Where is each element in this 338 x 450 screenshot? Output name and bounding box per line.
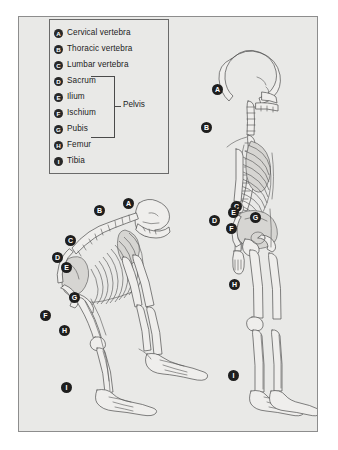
legend-label-c: Lumbar vertebra [67,57,129,73]
callout-human-e: E [228,207,239,218]
pelvis-bracket-tick [115,106,121,107]
legend-badge-c: C [54,61,63,70]
callout-ape-i: I [61,382,72,393]
legend-item-a: A Cervical vertebra [54,25,168,41]
figure-panel: A Cervical vertebra B Thoracic vertebra … [18,16,318,432]
legend-badge-e: E [54,93,63,102]
ape-skeleton-art [57,199,207,415]
callout-human-b: B [201,122,212,133]
callout-ape-b: B [94,205,105,216]
legend-item-e: E Ilium [54,89,168,105]
legend-box: A Cervical vertebra B Thoracic vertebra … [49,19,169,174]
legend-item-c: C Lumbar vertebra [54,57,168,73]
legend-item-f: F Ischium [54,105,168,121]
legend-item-d: D Sacrum [54,73,168,89]
legend-badge-d: D [54,77,63,86]
legend-label-i: Tibia [67,153,85,169]
legend-badge-h: H [54,141,63,150]
legend-label-b: Thoracic vertebra [67,41,132,57]
callout-ape-d: D [52,252,63,263]
callout-human-a: A [212,84,223,95]
pelvis-bracket-label: Pelvis [123,100,145,109]
legend-item-g: G Pubis [54,121,168,137]
legend-badge-b: B [54,45,63,54]
callout-human-h: H [229,279,240,290]
legend-label-h: Femur [67,137,91,153]
legend-label-a: Cervical vertebra [67,25,131,41]
legend-label-f: Ischium [67,105,96,121]
callout-ape-g: G [69,292,80,303]
callout-human-f: F [226,223,237,234]
callout-ape-c: C [65,235,76,246]
callout-human-g: G [250,212,261,223]
legend-item-h: H Femur [54,137,168,153]
callout-ape-f: F [40,310,51,321]
legend-label-g: Pubis [67,121,88,137]
callout-ape-e: E [61,262,72,273]
legend-label-e: Ilium [67,89,85,105]
callout-ape-h: H [59,325,70,336]
callout-human-i: I [228,370,239,381]
legend-item-i: I Tibia [54,153,168,169]
legend-badge-f: F [54,109,63,118]
legend-badge-g: G [54,125,63,134]
legend-label-d: Sacrum [67,73,96,89]
legend-badge-i: I [54,157,63,166]
legend-item-b: B Thoracic vertebra [54,41,168,57]
callout-human-d: D [209,215,220,226]
legend-badge-a: A [54,29,63,38]
callout-ape-a: A [123,198,134,209]
